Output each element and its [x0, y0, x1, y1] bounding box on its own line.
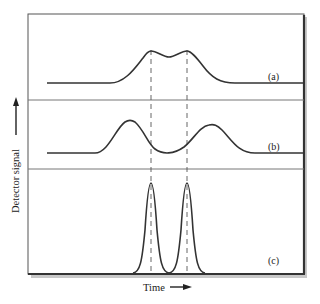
panel-label-c: (c) — [268, 255, 279, 267]
x-axis-label: Time — [143, 282, 165, 293]
plot-frame — [28, 14, 304, 274]
x-axis-label-group: Time — [143, 282, 192, 293]
y-axis-arrow-icon — [13, 97, 19, 106]
y-axis-label-group: Detector signal — [10, 97, 21, 213]
panel-label-b: (b) — [268, 141, 280, 153]
chromatogram-resolution-figure: (a) (b) (c) Detector signal Time — [0, 0, 320, 304]
x-axis-arrow-icon — [183, 284, 192, 290]
y-axis-label: Detector signal — [10, 149, 21, 213]
panel-label-a: (a) — [268, 71, 279, 83]
